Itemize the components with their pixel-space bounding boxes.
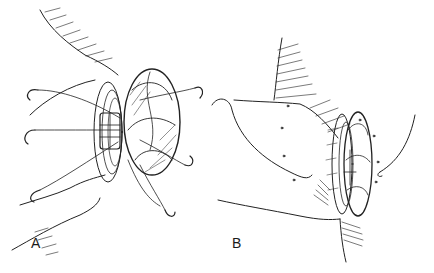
- panel-b: B: [210, 0, 434, 273]
- panel-a: A: [0, 0, 210, 273]
- panel-label-a: A: [31, 235, 40, 251]
- illustration-figure: A: [0, 0, 434, 273]
- panel-b-drawing: [210, 0, 434, 273]
- panel-a-drawing: [0, 0, 210, 273]
- panel-label-b: B: [232, 235, 241, 251]
